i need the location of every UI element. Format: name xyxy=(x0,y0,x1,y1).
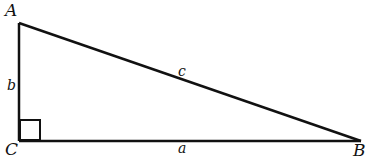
side-c-line xyxy=(19,23,361,141)
right-angle-marker xyxy=(20,120,40,140)
side-c-label: c xyxy=(178,63,186,79)
vertex-b-label: B xyxy=(352,140,366,156)
vertex-a-label: A xyxy=(3,0,17,20)
side-a-label: a xyxy=(178,140,186,156)
side-b-label: b xyxy=(7,77,16,93)
right-triangle-diagram: A C B b c a xyxy=(0,0,369,156)
vertex-c-label: C xyxy=(5,139,18,156)
